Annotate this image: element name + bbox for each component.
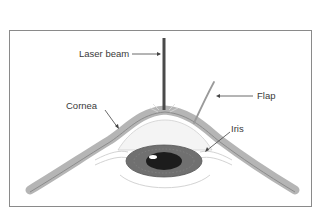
lasik-eye-illustration (0, 0, 325, 223)
laser-beam-shape (163, 38, 166, 110)
flap-label: Flap (257, 91, 275, 101)
cornea-label: Cornea (66, 101, 97, 111)
pupil-shape (146, 152, 182, 170)
flap-shape (194, 82, 214, 123)
iris-label: Iris (231, 124, 244, 134)
laser-beam-label: Laser beam (79, 49, 129, 59)
